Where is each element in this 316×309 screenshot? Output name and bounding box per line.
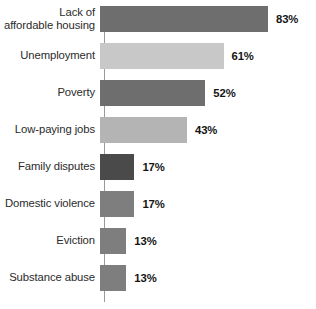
category-label: Unemployment (0, 49, 100, 62)
category-label: Family disputes (0, 160, 100, 173)
bar-value-label: 13% (134, 272, 156, 284)
bar-row: Eviction 13% (0, 222, 316, 259)
bar-segment (100, 154, 134, 180)
bar-segment (100, 265, 126, 291)
bar-track: 17% (100, 185, 316, 222)
bar-value-label: 17% (142, 161, 164, 173)
bar-track: 43% (100, 111, 316, 148)
bar-track: 13% (100, 222, 316, 259)
bar-segment (100, 43, 224, 69)
bar-row: Domestic violence 17% (0, 185, 316, 222)
bar-segment (100, 117, 187, 143)
bar-row: Poverty 52% (0, 74, 316, 111)
bar-value-label: 83% (276, 13, 298, 25)
bar-value-label: 13% (134, 235, 156, 247)
bar-value-label: 61% (232, 50, 254, 62)
bar-row: Low-paying jobs 43% (0, 111, 316, 148)
bar-row: Lack of affordable housing 83% (0, 0, 316, 37)
bar-value-label: 52% (213, 87, 235, 99)
category-label: Poverty (0, 86, 100, 99)
bar-segment (100, 6, 268, 32)
bar-track: 61% (100, 37, 316, 74)
bar-track: 52% (100, 74, 316, 111)
category-label: Substance abuse (0, 271, 100, 284)
bar-value-label: 17% (142, 198, 164, 210)
bar-track: 83% (100, 0, 316, 37)
category-label: Low-paying jobs (0, 123, 100, 136)
bar-segment (100, 228, 126, 254)
bar-rows-container: Lack of affordable housing 83% Unemploym… (0, 0, 316, 309)
category-label: Domestic violence (0, 197, 100, 210)
bar-value-label: 43% (195, 124, 217, 136)
bar-row: Family disputes 17% (0, 148, 316, 185)
category-label: Lack of affordable housing (0, 6, 100, 32)
bar-track: 17% (100, 148, 316, 185)
bar-segment (100, 191, 134, 217)
category-label: Eviction (0, 234, 100, 247)
bar-track: 13% (100, 259, 316, 296)
bar-row: Substance abuse 13% (0, 259, 316, 296)
bar-segment (100, 80, 205, 106)
bar-row: Unemployment 61% (0, 37, 316, 74)
bar-chart: Lack of affordable housing 83% Unemploym… (0, 0, 316, 309)
